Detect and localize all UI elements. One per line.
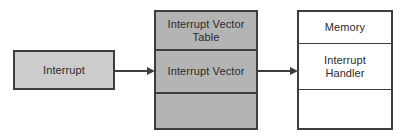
interrupt-vector-cell: Interrupt Vector [156,51,256,94]
interrupt-flow-diagram: Interrupt Interrupt Vector Table Interru… [0,0,405,137]
memory-box: Memory Interrupt Handler [297,10,393,130]
arrow-vector-to-handler [257,66,298,76]
interrupt-source-box: Interrupt [13,50,115,90]
interrupt-vector-table-title-cell: Interrupt Vector Table [156,12,256,51]
interrupt-source-label: Interrupt [15,52,113,88]
interrupt-vector-table-empty-cell [156,94,256,128]
memory-empty-cell [299,90,391,128]
interrupt-vector-table-box: Interrupt Vector Table Interrupt Vector [154,10,258,130]
memory-title-cell: Memory [299,12,391,44]
arrow-interrupt-to-vector-table [114,66,155,76]
interrupt-handler-cell: Interrupt Handler [299,44,391,90]
